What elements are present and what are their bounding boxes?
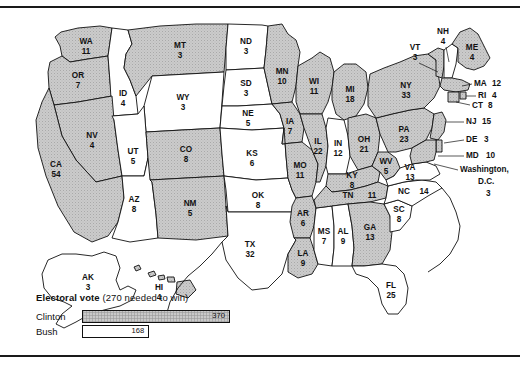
state-nd[interactable]: ND 3 [226, 24, 268, 70]
state-votes-ri: 4 [492, 91, 497, 100]
state-votes-ct: 8 [488, 101, 493, 110]
callout-ri[interactable]: RI 4 [466, 91, 497, 100]
state-ct[interactable] [448, 92, 459, 102]
state-sd[interactable]: SD 3 [222, 68, 272, 106]
callout-md[interactable]: MD 10 [438, 151, 496, 160]
state-me[interactable]: ME 4 [452, 28, 490, 70]
legend-label-clinton: Clinton [36, 311, 82, 322]
callout-de[interactable]: DE 3 [444, 135, 489, 144]
state-ok[interactable]: OK 8 [224, 176, 298, 212]
state-label-md: MD [466, 151, 479, 160]
legend-value-clinton: 370 [212, 312, 229, 320]
state-ga[interactable]: GA 13 [348, 202, 392, 266]
state-votes-nh: 4 [441, 37, 446, 46]
state-tx[interactable]: TX 32 [222, 206, 300, 290]
legend-bar-bush: 168 [82, 325, 149, 338]
state-label-de: DE [466, 135, 478, 144]
legend-bar-track-bush: 168 [82, 325, 149, 338]
state-mn[interactable]: MN 10 [264, 24, 300, 104]
legend-row-bush: Bush 168 [36, 324, 286, 338]
dc-label-line2: D.C. [478, 177, 494, 186]
state-ks[interactable]: KS 6 [220, 128, 288, 180]
bottom-rule [0, 355, 520, 357]
map-legend: Electoral vote (270 needed to win) Clint… [36, 292, 286, 339]
state-ms[interactable]: MS 7 [314, 206, 334, 266]
state-wi[interactable]: WI 11 [296, 52, 334, 114]
state-label-nj: NJ [466, 117, 476, 126]
state-votes-md: 10 [486, 151, 496, 160]
state-label-hi: HI [155, 283, 163, 292]
legend-title-bold: Electoral vote [36, 292, 100, 303]
callout-dc[interactable]: Washington, D.C. 3 [434, 164, 509, 198]
state-in[interactable]: IN 12 [326, 118, 350, 174]
state-label-vt: VT [410, 43, 420, 52]
legend-value-bush: 168 [132, 327, 149, 335]
callout-ct[interactable]: CT 8 [456, 101, 493, 110]
electoral-map-figure: WA 11 OR 7 ID 4 MT 3 WY 3 NV [0, 0, 520, 366]
state-votes-ma: 12 [492, 79, 502, 88]
top-rule [0, 6, 520, 8]
state-label-ma: MA [474, 79, 487, 88]
state-fl[interactable]: FL 25 [352, 264, 408, 314]
callout-nj[interactable]: NJ 15 [446, 117, 492, 126]
state-votes-nj: 15 [482, 117, 492, 126]
state-votes-de: 3 [484, 135, 489, 144]
legend-bar-track-clinton: 370 [82, 310, 230, 323]
state-co[interactable]: CO 8 [146, 128, 224, 180]
state-ne[interactable]: NE 5 [220, 104, 284, 130]
state-wy[interactable]: WY 3 [144, 72, 224, 132]
state-ri[interactable] [460, 92, 466, 99]
dc-votes: 3 [486, 189, 491, 198]
state-label-ct: CT [472, 101, 483, 110]
legend-title: Electoral vote (270 needed to win) [36, 292, 286, 303]
state-ny[interactable]: NY 33 [368, 54, 440, 118]
atlantic-coastline [428, 188, 460, 272]
state-ar[interactable]: AR 6 [290, 196, 316, 238]
dc-label-line1: Washington, [460, 165, 509, 174]
legend-bar-clinton: 370 [82, 310, 230, 323]
legend-label-bush: Bush [36, 326, 82, 337]
legend-row-clinton: Clinton 370 [36, 309, 286, 323]
state-de[interactable] [436, 140, 442, 152]
state-label-nh: NH [437, 27, 449, 36]
state-nm[interactable]: NM 5 [150, 176, 228, 240]
state-mi[interactable]: MI 18 [332, 64, 368, 120]
state-label-ri: RI [478, 91, 486, 100]
legend-title-note: (270 needed to win) [102, 292, 188, 303]
